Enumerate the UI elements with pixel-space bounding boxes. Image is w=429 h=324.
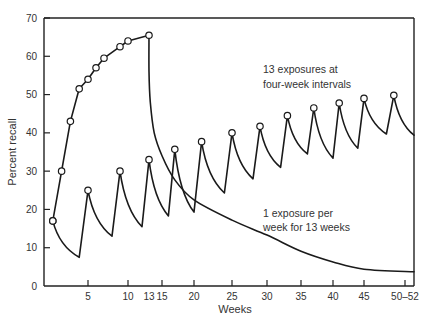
y-ticks: 010203040506070 [26,13,50,292]
weekly-exposure-marker [85,76,91,82]
x-tick-label: 50–52 [391,291,419,302]
y-tick-label: 0 [31,281,37,292]
weekly-exposure-marker [117,44,123,50]
x-tick-label: 45 [358,291,370,302]
x-tick-label: 13 [143,291,155,302]
x-tick-label: 5 [85,291,91,302]
weekly-exposure-marker [67,118,73,124]
weekly-exposure-marker [58,168,64,174]
y-tick-label: 60 [26,51,38,62]
y-tick-label: 70 [26,13,38,24]
weekly-exposure-marker [93,65,99,71]
x-tick-label: 10 [122,291,134,302]
four-week-exposure-marker [117,168,123,174]
x-tick-label: 35 [295,291,307,302]
x-tick-label: 25 [226,291,238,302]
weekly-exposure-marker [76,86,82,92]
four-week-exposure-marker [50,218,56,224]
x-tick-label: 40 [327,291,339,302]
annotation-four-week-line2: four-week intervals [263,78,351,90]
x-tick-label: 30 [261,291,273,302]
four-week-exposure-marker [361,95,367,101]
y-axis-title: Percent recall [6,118,18,185]
annotation-weekly-line2: week for 13 weeks [262,221,350,233]
weekly-exposure-line [53,35,149,221]
y-tick-label: 50 [26,89,38,100]
four-week-exposure-marker [85,187,91,193]
series-layer [53,35,414,272]
y-tick-label: 30 [26,166,38,177]
four-week-exposure-marker [172,146,178,152]
weekly-exposure-marker [125,38,131,44]
four-week-exposure-marker [311,105,317,111]
four-week-exposure-marker [391,92,397,98]
y-tick-label: 20 [26,204,38,215]
four-week-exposure-marker [198,138,204,144]
weekly-exposure-marker [146,32,152,38]
four-week-exposure-marker [229,130,235,136]
recall-chart: 010203040506070 510131520253035404550–52… [0,0,429,324]
y-tick-label: 10 [26,242,38,253]
four-week-exposure-marker [336,100,342,106]
four-week-exposure-marker [257,123,263,129]
y-tick-label: 40 [26,127,38,138]
x-ticks: 510131520253035404550–52 [85,280,419,302]
weekly-exposure-marker [101,55,107,61]
annotation-four-week-line1: 13 exposures at [263,63,338,75]
four-week-exposure-marker [284,112,290,118]
x-axis-title: Weeks [218,303,252,315]
four-week-sawtooth-line [53,95,414,257]
annotation-weekly-line1: 1 exposure per [263,207,334,219]
x-tick-label: 15 [156,291,168,302]
x-tick-label: 20 [188,291,200,302]
four-week-exposure-marker [146,156,152,162]
